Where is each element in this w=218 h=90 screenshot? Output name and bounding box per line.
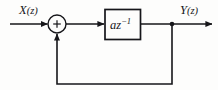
output-label: Y(z) xyxy=(180,3,199,17)
diagram-canvas: X(z) Y(z) az−1 xyxy=(0,0,218,90)
input-label: X(z) xyxy=(18,3,38,17)
output-junction-dot xyxy=(170,22,175,27)
block-diagram-figure: X(z) Y(z) az−1 xyxy=(0,0,218,90)
